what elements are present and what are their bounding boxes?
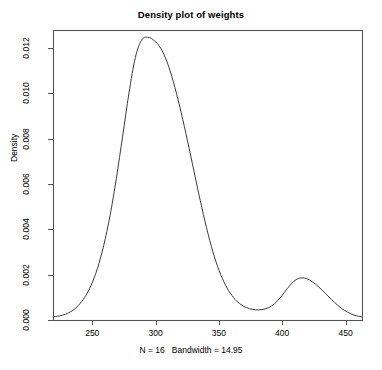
y-tick-label: 0.006 <box>21 167 31 201</box>
y-tick-label: 0.012 <box>21 31 31 65</box>
plot-canvas <box>0 0 382 370</box>
x-tick-label: 450 <box>331 328 361 338</box>
density-curve <box>53 37 362 317</box>
y-tick-label: 0.008 <box>21 122 31 156</box>
y-tick-label: 0.004 <box>21 212 31 246</box>
y-axis-title: Density <box>9 148 19 162</box>
plot-frame <box>54 31 363 321</box>
x-axis-caption: N = 16 Bandwidth = 14.95 <box>0 345 382 356</box>
x-tick-label: 400 <box>267 328 297 338</box>
y-tick-label: 0.002 <box>21 258 31 292</box>
y-tick-label: 0.010 <box>21 76 31 110</box>
x-tick-label: 250 <box>77 328 107 338</box>
x-tick-label: 350 <box>204 328 234 338</box>
x-tick-label: 300 <box>141 328 171 338</box>
density-plot-figure: Density plot of weights Density N = 16 B… <box>0 0 382 370</box>
y-tick-label: 0.000 <box>21 303 31 337</box>
